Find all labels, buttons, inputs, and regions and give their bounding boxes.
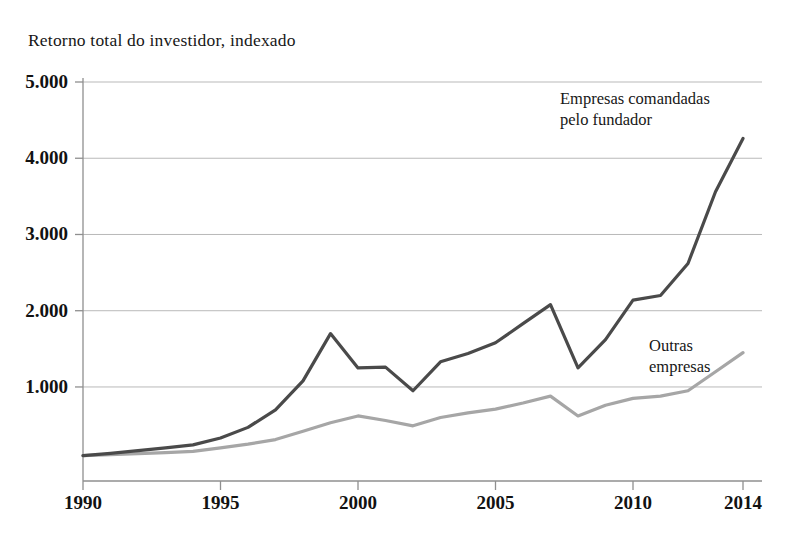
x-axis-tick-label: 2000 <box>339 492 377 514</box>
x-axis-tick-label: 2005 <box>477 492 515 514</box>
series-label-other-companies: Outras empresas <box>649 335 710 377</box>
series-label-founder-led-line2: pelo fundador <box>560 109 710 130</box>
x-axis-tick-label: 2014 <box>724 492 762 514</box>
y-axis-tick-label: 3.000 <box>0 223 68 245</box>
series-line <box>83 353 743 456</box>
x-axis-tick-label: 1995 <box>202 492 240 514</box>
y-axis-tick-label: 2.000 <box>0 300 68 322</box>
series-line <box>83 138 743 455</box>
axis-ticks <box>75 82 743 490</box>
x-axis-tick-label: 2010 <box>614 492 652 514</box>
x-axis-tick-label: 1990 <box>64 492 102 514</box>
series-label-other-companies-line2: empresas <box>649 356 710 377</box>
y-axis-tick-label: 5.000 <box>0 71 68 93</box>
series-label-founder-led-line1: Empresas comandadas <box>560 88 710 109</box>
y-axis-tick-label: 1.000 <box>0 376 68 398</box>
series-label-founder-led: Empresas comandadas pelo fundador <box>560 88 710 130</box>
series-label-other-companies-line1: Outras <box>649 335 710 356</box>
chart-figure: Retorno total do investidor, indexado 1.… <box>0 0 790 546</box>
line-chart-plot <box>0 0 790 546</box>
series-paths <box>83 138 743 455</box>
page-title: Retorno total do investidor, indexado <box>28 30 296 51</box>
y-axis-tick-label: 4.000 <box>0 147 68 169</box>
